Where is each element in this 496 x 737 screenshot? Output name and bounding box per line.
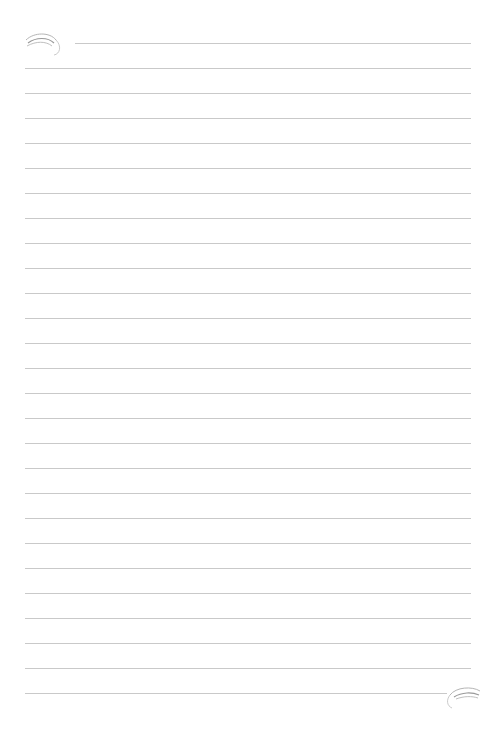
ruled-line: [25, 543, 471, 544]
ruled-line: [25, 668, 471, 669]
ruled-line: [25, 343, 471, 344]
top-left-flourish-icon: [24, 30, 64, 58]
ruled-line: [25, 618, 471, 619]
ruled-line: [25, 593, 471, 594]
ruled-line: [25, 118, 471, 119]
ruled-line: [25, 568, 471, 569]
ruled-line: [25, 418, 471, 419]
ruled-line: [25, 468, 471, 469]
ruled-line: [25, 193, 471, 194]
ruled-line: [25, 168, 471, 169]
ruled-line: [25, 443, 471, 444]
ruled-line: [25, 368, 471, 369]
ruled-line: [25, 218, 471, 219]
ruled-line: [25, 643, 471, 644]
ruled-line: [25, 393, 471, 394]
bottom-right-flourish-icon: [444, 683, 484, 711]
ruled-line: [25, 293, 471, 294]
ruled-line: [25, 243, 471, 244]
ruled-line: [25, 493, 471, 494]
ruled-line: [25, 143, 471, 144]
ruled-line: [75, 43, 471, 44]
ruled-line: [25, 268, 471, 269]
ruled-line: [25, 68, 471, 69]
ruled-line: [25, 518, 471, 519]
ruled-line: [25, 693, 447, 694]
lined-paper-page: [0, 0, 496, 737]
ruled-line: [25, 93, 471, 94]
ruled-line: [25, 318, 471, 319]
